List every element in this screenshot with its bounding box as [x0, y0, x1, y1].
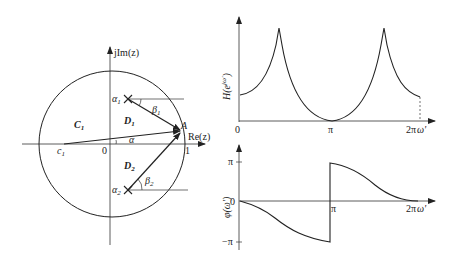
phase-curve	[240, 163, 418, 242]
phase-chart: φ(ω') π 0 −π π 2πω'	[221, 145, 435, 250]
mag-tick-pi: π	[328, 124, 333, 135]
D2-label: D2	[123, 160, 135, 173]
pole2-label: α2	[112, 184, 121, 197]
mag-y-label: H(ejω')	[220, 73, 233, 101]
mag-tick-0: 0	[235, 124, 240, 135]
pole-zero-plot: jIm(z) Re(z) 0 1 A c1 α1 α2 β1 β2 α C1 D…	[22, 47, 210, 245]
point-A-label: A	[180, 120, 188, 131]
C1-label: C1	[74, 119, 84, 132]
pole1-label: α1	[112, 93, 121, 106]
magnitude-chart: H(ejω') 0 π 2πω'	[220, 17, 435, 135]
imag-axis-label: jIm(z)	[113, 47, 139, 59]
beta2-label: β2	[144, 175, 154, 188]
magnitude-curve	[240, 28, 420, 121]
zero-c1-label: c1	[57, 145, 65, 158]
D1-label: D1	[123, 115, 135, 128]
unit-label: 1	[185, 145, 190, 156]
origin-label: 0	[102, 145, 107, 156]
figure: jIm(z) Re(z) 0 1 A c1 α1 α2 β1 β2 α C1 D…	[0, 0, 456, 265]
phase-tick-negpi-y: −π	[222, 236, 233, 247]
angle-beta1-arc	[139, 99, 141, 106]
vector-D2	[128, 133, 180, 190]
angle-beta2-arc	[138, 179, 142, 190]
real-axis-label: Re(z)	[188, 131, 210, 143]
phase-tick-pi-x: π	[331, 203, 336, 214]
phase-tick-2pi-x: 2πω'	[406, 203, 427, 214]
phase-tick-pi-y: π	[228, 156, 233, 167]
alpha-angle-label: α	[129, 134, 135, 145]
mag-tick-2pi: 2πω'	[406, 124, 427, 135]
vector-C1	[64, 131, 180, 144]
phase-tick-0-y: 0	[230, 196, 235, 207]
